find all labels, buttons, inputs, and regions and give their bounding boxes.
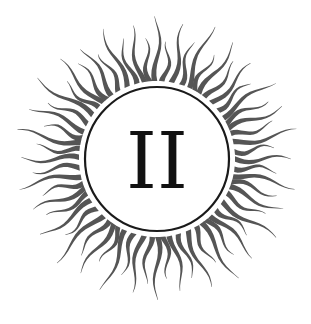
sun-ray [151,16,161,81]
numeral-text: II [126,116,188,206]
sun-ray [33,186,86,210]
sun-ray [33,163,80,175]
sun-ray [153,237,163,300]
sun-ray [234,145,274,157]
sun-ray [21,153,79,163]
sun-ray [197,42,234,94]
sun-ray [169,24,184,83]
sun-emblem: II [0,0,311,324]
sun-ray [100,229,128,290]
sun-ray [228,106,282,131]
sun-ray [143,38,153,81]
roman-numeral-two: II [126,116,188,206]
sun-ray [234,165,276,174]
sun-ray [187,27,215,89]
sun-ray [235,155,291,164]
